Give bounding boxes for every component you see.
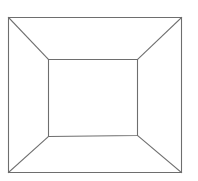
connector-top-right — [138, 18, 182, 60]
frustum-diagram — [0, 0, 198, 181]
connector-bottom-right — [138, 136, 182, 173]
inner-square — [49, 60, 138, 137]
connector-top-left — [9, 18, 49, 60]
connector-bottom-left — [9, 137, 49, 173]
